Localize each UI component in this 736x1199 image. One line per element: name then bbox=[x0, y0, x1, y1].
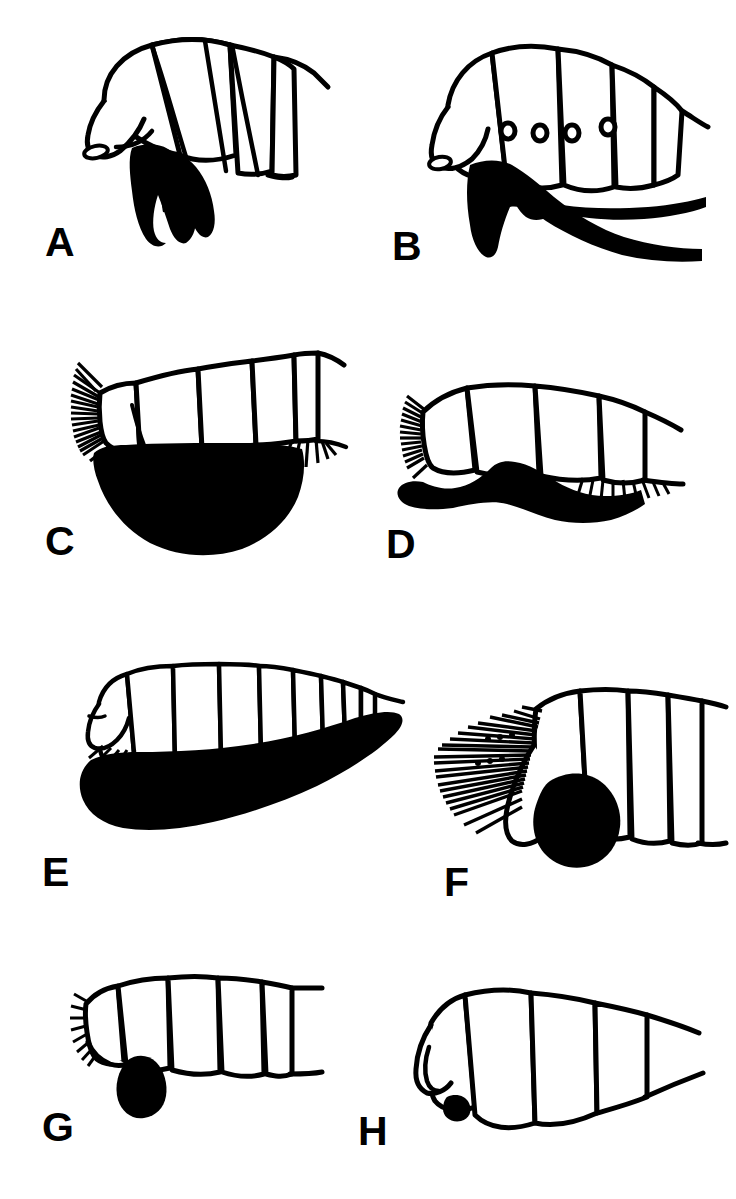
panel-c-black-terminalia bbox=[93, 443, 304, 555]
figure-plate: A bbox=[0, 0, 736, 1199]
panel-c-apex-line bbox=[318, 353, 344, 365]
panel-b-apex-line bbox=[682, 111, 708, 127]
panel-e bbox=[55, 660, 425, 890]
panel-label-d: D bbox=[386, 524, 416, 565]
panel-a-drawing bbox=[60, 25, 350, 275]
panel-label-h: H bbox=[358, 1111, 388, 1152]
panel-label-a: A bbox=[45, 222, 75, 263]
panel-b bbox=[400, 35, 730, 285]
panel-f-drawing bbox=[430, 685, 730, 905]
panel-a-ventral-apex bbox=[268, 175, 292, 178]
panel-label-g: G bbox=[42, 1107, 74, 1148]
panel-label-e: E bbox=[42, 852, 69, 893]
panel-b-drawing bbox=[400, 35, 730, 285]
panel-h-dorsal-taper bbox=[647, 1015, 699, 1033]
panel-e-drawing bbox=[55, 660, 425, 890]
panel-g bbox=[70, 970, 370, 1150]
panel-c bbox=[70, 345, 360, 575]
panel-a bbox=[60, 25, 350, 275]
panel-h-ventral-taper bbox=[645, 1073, 703, 1097]
panel-f-apex-line bbox=[702, 701, 726, 707]
panel-h-drawing bbox=[395, 975, 725, 1175]
panel-label-c: C bbox=[45, 521, 75, 562]
panel-d-drawing bbox=[395, 370, 715, 570]
panel-f bbox=[430, 685, 730, 905]
panel-d bbox=[395, 370, 715, 570]
panel-d-apex-line bbox=[645, 412, 681, 430]
panel-h bbox=[395, 975, 725, 1175]
panel-f-black-knob bbox=[533, 774, 620, 868]
panel-g-ventral-apex bbox=[290, 1072, 322, 1074]
panel-label-f: F bbox=[444, 862, 469, 903]
panel-e-basal-notch bbox=[89, 716, 105, 718]
panel-g-drawing bbox=[70, 970, 370, 1150]
panel-c-posterior-line bbox=[316, 441, 346, 447]
panel-f-ventral-apex bbox=[698, 843, 726, 845]
panel-e-apex-line bbox=[375, 694, 403, 702]
panel-c-drawing bbox=[70, 345, 360, 575]
running-header bbox=[0, 0, 736, 3]
panel-label-b: B bbox=[392, 226, 422, 267]
